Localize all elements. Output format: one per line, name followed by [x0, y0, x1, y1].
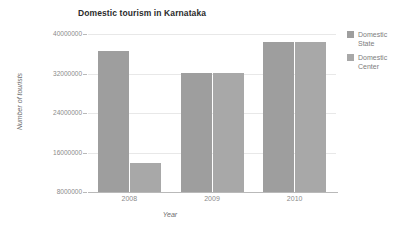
bar-domestic-center-2008: [130, 163, 161, 192]
legend-item-label: Domestic Center: [358, 53, 406, 71]
chart-legend: Domestic State Domestic Center: [347, 30, 412, 76]
legend-swatch-icon: [347, 54, 354, 61]
bar-domestic-state-2010: [263, 42, 294, 192]
bar-domestic-center-2009: [213, 73, 244, 192]
x-tick-label: 2010: [265, 195, 325, 202]
y-tick-mark: [83, 192, 87, 193]
y-tick-label: 40000000: [12, 30, 82, 37]
legend-label-line2: State: [358, 40, 374, 47]
gridline: [88, 34, 336, 35]
chart-title: Domestic tourism in Karnataka: [78, 8, 338, 18]
y-tick-mark: [83, 74, 87, 75]
bar-domestic-center-2010: [295, 42, 326, 192]
legend-item[interactable]: Domestic State: [347, 30, 412, 48]
y-tick-mark: [83, 153, 87, 154]
legend-label-line1: Domestic: [358, 31, 387, 38]
y-tick-mark: [83, 113, 87, 114]
y-tick-label: 16000000: [12, 149, 82, 156]
legend-item[interactable]: Domestic Center: [347, 53, 412, 71]
y-axis-title: Number of tourists: [16, 47, 23, 157]
x-axis-title: Year: [0, 211, 340, 218]
y-tick-label: 24000000: [12, 109, 82, 116]
bar-domestic-state-2008: [98, 51, 129, 192]
x-axis-line: [88, 192, 338, 193]
legend-swatch-icon: [347, 31, 354, 38]
legend-label-line2: Center: [358, 63, 379, 70]
legend-label-line1: Domestic: [358, 54, 387, 61]
x-tick-label: 2009: [182, 195, 242, 202]
legend-item-label: Domestic State: [358, 30, 406, 48]
x-tick-label: 2008: [99, 195, 159, 202]
y-tick-label: 8000000: [12, 188, 82, 195]
y-tick-mark: [83, 34, 87, 35]
y-tick-label: 32000000: [12, 70, 82, 77]
chart-container: Domestic tourism in Karnataka Number of …: [0, 0, 412, 236]
plot-area: [88, 34, 336, 192]
bar-domestic-state-2009: [181, 73, 212, 192]
